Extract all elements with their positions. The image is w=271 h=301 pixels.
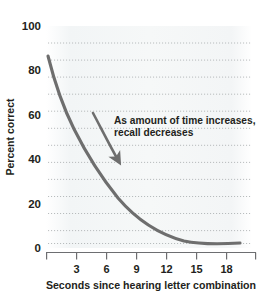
- x-tick-label-3: 3: [74, 263, 80, 275]
- x-tick-label-18: 18: [220, 263, 232, 275]
- annotation-line-2: recall decreases: [114, 127, 194, 138]
- y-tick-label-20: 20: [28, 198, 41, 210]
- annotation-line-1: As amount of time increases,: [114, 115, 256, 126]
- y-tick-label-80: 80: [28, 64, 41, 76]
- y-tick-label-40: 40: [28, 153, 41, 165]
- y-tick-label-100: 100: [22, 20, 41, 32]
- y-tick-label-0: 0: [35, 242, 41, 254]
- y-tick-label-60: 60: [28, 109, 41, 121]
- x-tick-label-15: 15: [190, 263, 202, 275]
- x-tick-label-6: 6: [104, 263, 110, 275]
- x-tick-label-9: 9: [134, 263, 140, 275]
- x-tick-label-12: 12: [160, 263, 172, 275]
- chart-figure: 100 80 60 40 20 0 Percent correct As amo…: [0, 0, 271, 301]
- x-axis-title: Seconds since hearing letter combination: [46, 279, 256, 291]
- forgetting-curve-chart: 100 80 60 40 20 0 Percent correct As amo…: [0, 0, 271, 301]
- y-axis-title: Percent correct: [4, 98, 16, 176]
